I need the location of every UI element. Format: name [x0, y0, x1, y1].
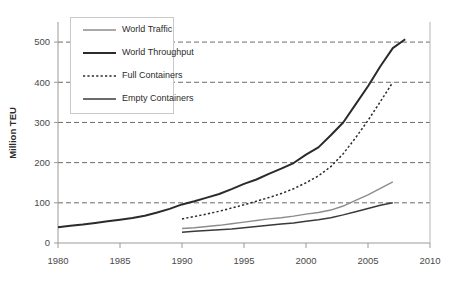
x-tick-label-1990: 1990: [171, 255, 192, 266]
x-tick-label-1980: 1980: [47, 255, 68, 266]
x-tick-label-1985: 1985: [109, 255, 130, 266]
x-tick-label-2010: 2010: [419, 255, 440, 266]
y-tick-label-0: 0: [45, 237, 50, 248]
chart-container: 0100200300400500 19801985199019952000200…: [0, 0, 457, 290]
y-axis-title: Million TEU: [7, 107, 18, 159]
y-tick-label-100: 100: [34, 197, 50, 208]
x-tick-label-2000: 2000: [295, 255, 316, 266]
y-tick-label-400: 400: [34, 77, 50, 88]
legend-label-world-traffic: World Traffic: [122, 24, 173, 34]
legend-label-full-containers: Full Containers: [122, 70, 183, 80]
x-tick-label-2005: 2005: [357, 255, 378, 266]
legend-label-empty-containers: Empty Containers: [122, 93, 194, 103]
chart-background: [0, 0, 457, 290]
line-chart: 0100200300400500 19801985199019952000200…: [0, 0, 457, 290]
y-tick-label-300: 300: [34, 117, 50, 128]
y-tick-label-200: 200: [34, 157, 50, 168]
legend-label-world-throughput: World Throughput: [122, 47, 194, 57]
y-tick-label-500: 500: [34, 36, 50, 47]
x-tick-label-1995: 1995: [233, 255, 254, 266]
